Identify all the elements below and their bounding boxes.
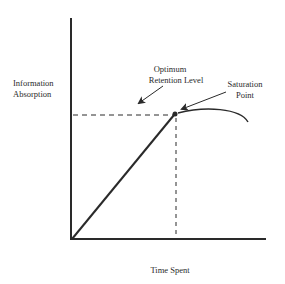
absorption-rise-line: [72, 115, 174, 239]
plateau-curve: [178, 109, 248, 122]
optimum-label-line1: Optimum: [154, 64, 187, 74]
x-axis-label: Time Spent: [150, 265, 190, 275]
saturation-point-dot: [173, 112, 178, 117]
diagram-canvas: Information Absorption Optimum Retention…: [0, 0, 285, 284]
saturation-arrow: [182, 92, 226, 109]
y-axis-label-line1: Information: [13, 78, 54, 88]
saturation-label-line1: Saturation: [228, 79, 264, 89]
y-axis-label-line2: Absorption: [13, 89, 52, 99]
saturation-label-line2: Point: [236, 90, 255, 100]
optimum-label-line2: Retention Level: [149, 75, 204, 85]
optimum-arrow: [139, 86, 163, 103]
